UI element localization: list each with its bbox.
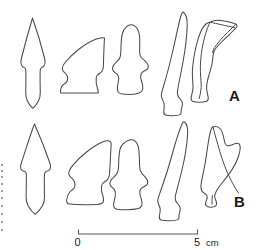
artifact-a4-curved-backed-blade: [161, 12, 187, 116]
artifact-plate-canvas: A B 0 5 cm: [0, 0, 257, 250]
figure-plate: A B 0 5 cm: [0, 0, 257, 250]
scale-bar-unit-label: cm: [206, 237, 219, 248]
scan-edge-speckles: [1, 164, 3, 231]
artifact-a3-shouldered-stemmed-point: [113, 25, 149, 95]
scale-bar-end-label: 5: [194, 236, 200, 248]
scale-bar-start-label: 0: [75, 236, 81, 248]
row-a-group: A: [21, 12, 240, 116]
artifact-a2-backed-triangular-blade: [61, 38, 105, 93]
row-b-label: B: [234, 193, 245, 210]
scale-bar: 0 5 cm: [75, 230, 219, 249]
artifact-b2-backed-triangular-blade: [67, 141, 112, 205]
artifact-a1-barbed-and-tanged-arrowhead: [21, 18, 45, 108]
artifact-b3-shouldered-stemmed-point: [110, 140, 148, 210]
artifact-b1-barbed-and-tanged-arrowhead: [21, 124, 51, 214]
row-a-label: A: [229, 87, 240, 104]
row-b-group: B: [21, 122, 245, 221]
artifact-b4-curved-backed-blade: [158, 122, 188, 221]
